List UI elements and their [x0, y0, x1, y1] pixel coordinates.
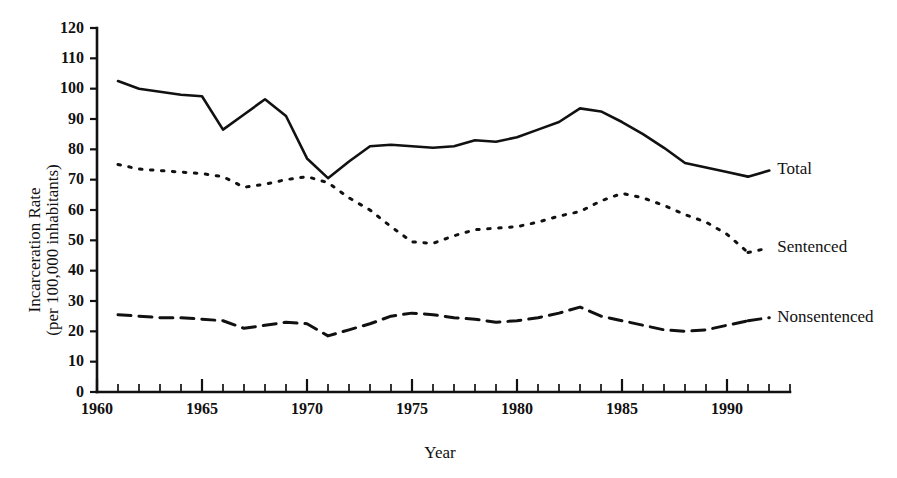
- x-axis-ticks: 1960196519701975198019851990: [81, 379, 790, 417]
- y-tick-label: 30: [68, 292, 84, 309]
- x-tick-label: 1990: [711, 400, 743, 417]
- y-tick-label: 20: [68, 322, 84, 339]
- axes-lines: [97, 28, 790, 392]
- series-inline-labels: TotalSentencedNonsentenced: [748, 159, 874, 325]
- y-axis-ticks: 0102030405060708090100110120: [60, 19, 97, 400]
- y-tick-label: 80: [68, 140, 84, 157]
- series-label-nonsentenced: Nonsentenced: [777, 307, 874, 326]
- y-axis-title-line2: (per 100,000 inhabitants): [43, 164, 62, 335]
- x-axis-title: Year: [424, 443, 456, 462]
- y-tick-label: 100: [60, 79, 84, 96]
- y-tick-label: 90: [68, 110, 84, 127]
- y-tick-label: 120: [60, 19, 84, 36]
- x-tick-label: 1970: [291, 400, 323, 417]
- x-tick-label: 1965: [186, 400, 218, 417]
- y-tick-label: 50: [68, 231, 84, 248]
- y-tick-label: 110: [61, 49, 84, 66]
- x-tick-label: 1975: [396, 400, 428, 417]
- series-label-total: Total: [777, 159, 812, 178]
- x-tick-label: 1985: [606, 400, 638, 417]
- y-axis-title-line1: Incarceration Rate: [25, 187, 44, 312]
- y-tick-label: 0: [76, 383, 84, 400]
- chart-figure: 0102030405060708090100110120 19601965197…: [0, 0, 897, 478]
- y-tick-label: 60: [68, 201, 84, 218]
- x-tick-label: 1980: [501, 400, 533, 417]
- series-label-sentenced: Sentenced: [777, 237, 847, 256]
- series-leader-nonsentenced: [748, 318, 769, 321]
- series-line-sentenced: [118, 165, 748, 253]
- series-leader-sentenced: [748, 248, 769, 253]
- y-tick-label: 40: [68, 261, 84, 278]
- data-series-group: [118, 81, 748, 336]
- series-line-total: [118, 81, 748, 178]
- incarceration-rate-line-chart: 0102030405060708090100110120 19601965197…: [0, 0, 897, 478]
- y-tick-label: 70: [68, 170, 84, 187]
- series-leader-total: [748, 171, 769, 177]
- x-tick-label: 1960: [81, 400, 113, 417]
- series-line-nonsentenced: [118, 307, 748, 336]
- y-tick-label: 10: [68, 352, 84, 369]
